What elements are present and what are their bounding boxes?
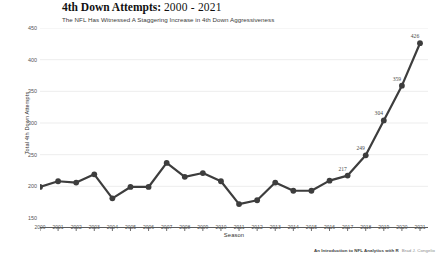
x-axis-tick-label: 2018 [360,224,371,230]
data-point [363,152,369,158]
x-axis-tick-label: 2015 [306,224,317,230]
data-point [146,184,152,190]
caption-author: Brad J. Congelio [402,248,435,253]
chart-title-block: 4th Down Attempts: 2000 - 2021 The NFL H… [62,1,402,23]
x-axis-tick-label: 2010 [215,224,226,230]
title-main-text: 4th Down Attempts: [62,1,161,13]
x-axis-tick-label: 2011 [234,224,245,230]
chart-subtitle: The NFL Has Witnessed A Staggering Incre… [62,16,402,23]
data-point [327,178,333,184]
plot-area: Total 4th Down Attempts 1502002503003504… [40,28,428,218]
data-point [381,118,387,124]
x-axis-tick-label: 2004 [107,224,118,230]
data-point-label: 359 [393,76,401,82]
x-axis-tick-label: 2002 [71,224,82,230]
y-axis-tick-label: 350 [28,88,37,94]
x-axis-title: Season [40,232,428,238]
y-axis-tick-label: 300 [28,120,37,126]
x-axis-tick-label: 2016 [324,224,335,230]
data-point [40,184,43,190]
data-series-line [40,43,420,204]
x-axis-tick-label: 2019 [378,224,389,230]
chart-container: 4th Down Attempts: 2000 - 2021 The NFL H… [0,0,441,259]
y-axis-tick-label: 400 [28,57,37,63]
x-axis-tick-label: 2013 [270,224,281,230]
page-title: 4th Down Attempts: 2000 - 2021 [62,1,402,14]
data-point [218,178,224,184]
chart-caption: An Introduction to NFL Analytics with RB… [314,248,435,253]
x-axis: 2000200120022003200420052006200720082009… [40,218,428,244]
x-axis-tick-label: 2020 [396,224,407,230]
line-chart-svg [40,28,428,218]
data-point [309,188,315,194]
data-point [236,201,242,207]
y-axis-tick-label: 150 [28,215,37,221]
x-axis-tick-label: 2021 [414,224,425,230]
x-axis-tick-label: 2017 [342,224,353,230]
x-axis-tick-label: 2000 [34,224,45,230]
y-axis-tick-label: 450 [28,25,37,31]
data-point [200,170,206,176]
data-point-label: 217 [338,166,346,172]
data-point-label: 426 [411,33,419,39]
data-point [345,173,351,179]
x-axis-tick-label: 2003 [89,224,100,230]
data-point [73,180,79,186]
y-axis-tick-label: 250 [28,152,37,158]
x-axis-tick-label: 2007 [161,224,172,230]
data-point [91,171,97,177]
x-axis-tick-label: 2009 [197,224,208,230]
x-axis-tick-label: 2005 [125,224,136,230]
data-point [109,195,115,201]
x-axis-tick-label: 2012 [252,224,263,230]
data-point [55,178,61,184]
x-axis-tick-label: 2001 [53,224,64,230]
data-point-label: 304 [375,110,383,116]
x-axis-tick-label: 2014 [288,224,299,230]
caption-source: An Introduction to NFL Analytics with R [314,248,399,253]
data-point [290,188,296,194]
data-point [128,184,134,190]
data-point [417,40,423,46]
data-point [182,174,188,180]
data-point [272,180,278,186]
y-axis-tick-label: 200 [28,183,37,189]
data-point [399,83,405,89]
data-point [254,197,260,203]
x-axis-tick-label: 2006 [143,224,154,230]
title-range-text: 2000 - 2021 [164,1,222,13]
data-point [164,160,170,166]
data-point-label: 249 [357,145,365,151]
x-axis-tick-label: 2008 [179,224,190,230]
